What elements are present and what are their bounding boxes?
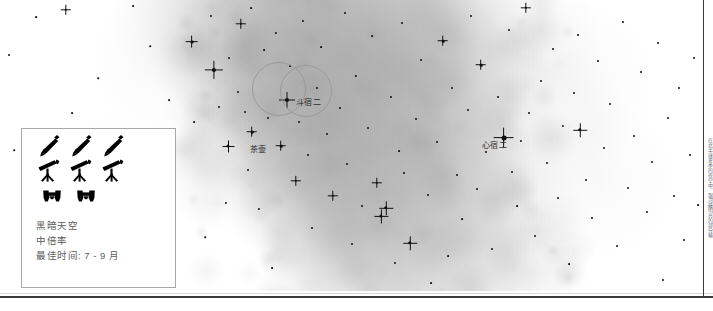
milky-way-mottle (538, 192, 592, 246)
milky-way-mottle (324, 0, 346, 17)
milky-way-mottle (272, 143, 312, 183)
star (609, 103, 611, 105)
milky-way-mottle (201, 0, 225, 21)
milky-way-mottle (218, 16, 273, 71)
milky-way-mottle (535, 244, 589, 292)
milky-way-mottle (194, 225, 209, 240)
star (646, 211, 648, 213)
milky-way-mottle (258, 188, 283, 213)
star (218, 106, 220, 108)
milky-way-cloud (205, 0, 505, 210)
milky-way-mottle (291, 267, 327, 291)
milky-way-mottle (266, 243, 287, 264)
star (546, 162, 548, 164)
milky-way-mottle (479, 25, 527, 73)
star (168, 99, 170, 101)
star-chart-page: 斗宿二茶壶心宿二 (0, 0, 713, 311)
milky-way-mottle (278, 9, 336, 67)
milky-way-mottle (302, 32, 320, 50)
star (678, 87, 680, 89)
milky-way-mottle (515, 3, 568, 56)
star (244, 111, 246, 113)
milky-way-mottle (262, 273, 311, 291)
milky-way-mottle (354, 275, 387, 291)
milky-way-mottle (305, 0, 340, 22)
milky-way-mottle (514, 15, 529, 30)
star (480, 64, 483, 67)
star (379, 214, 382, 217)
milky-way-mottle (281, 0, 343, 26)
milky-way-mottle (286, 0, 319, 8)
star (212, 68, 216, 72)
star (403, 172, 405, 174)
milky-way-mottle (547, 244, 560, 257)
milky-way-mottle (230, 173, 278, 221)
milky-way-mottle (472, 183, 518, 229)
star (585, 179, 587, 181)
star (351, 243, 353, 245)
star (35, 16, 37, 18)
milky-way-mottle (267, 281, 302, 291)
star (451, 87, 453, 89)
star (384, 206, 387, 209)
star (562, 125, 564, 127)
star (390, 96, 392, 98)
milky-way-mottle (349, 74, 373, 98)
milky-way-mottle (231, 113, 281, 163)
milky-way-mottle (301, 119, 340, 158)
milky-way-mottle (261, 153, 296, 188)
star (367, 127, 369, 129)
milky-way-cloud (250, 135, 430, 291)
milky-way-mottle (524, 112, 579, 167)
star (275, 32, 277, 34)
star (237, 91, 239, 93)
star (491, 248, 493, 250)
milky-way-mottle (259, 250, 278, 269)
milky-way-mottle (530, 113, 577, 160)
milky-way-cloud (410, 175, 590, 291)
page-rule-soft (0, 293, 713, 294)
milky-way-cloud (440, 0, 600, 120)
star (540, 80, 542, 82)
star (430, 282, 432, 284)
milky-way-mottle (252, 0, 295, 17)
star (502, 136, 507, 141)
milky-way-mottle (208, 26, 221, 39)
star (622, 21, 624, 23)
milky-way-mottle (328, 243, 374, 289)
star (516, 205, 518, 207)
milky-way-mottle (257, 234, 307, 284)
legend-text-block: 黑暗天空 中倍率 最佳时间: 7 - 9 月 (36, 218, 165, 263)
milky-way-mottle (221, 0, 244, 3)
milky-way-mottle (236, 259, 263, 286)
milky-way-mottle (177, 172, 236, 231)
star (627, 187, 629, 189)
milky-way-mottle (178, 86, 225, 133)
milky-way-mottle (365, 26, 381, 42)
milky-way-mottle (458, 90, 515, 147)
milky-way-mottle (407, 54, 468, 115)
milky-way-mottle (304, 204, 368, 268)
teapot-label: 茶壶 (250, 146, 267, 154)
star (204, 236, 206, 238)
milky-way-mottle (226, 159, 260, 193)
milky-way-mottle (518, 47, 565, 94)
star (193, 121, 195, 123)
telescope-icon (100, 159, 126, 187)
star (228, 57, 230, 59)
nunki-label: 斗宿二 (296, 99, 321, 107)
milky-way-mottle (414, 134, 438, 158)
milky-way-mottle (484, 74, 533, 123)
star (662, 279, 664, 281)
milky-way-mottle (431, 212, 487, 268)
star (302, 20, 304, 22)
milky-way-mottle (269, 192, 287, 210)
milky-way-mottle (479, 221, 532, 274)
star (227, 145, 230, 148)
milky-way-mottle (475, 186, 502, 213)
milky-way-mottle (375, 264, 391, 280)
star (371, 35, 373, 37)
milky-way-mottle (406, 80, 437, 111)
star (339, 107, 341, 109)
milky-way-mottle (433, 15, 482, 64)
